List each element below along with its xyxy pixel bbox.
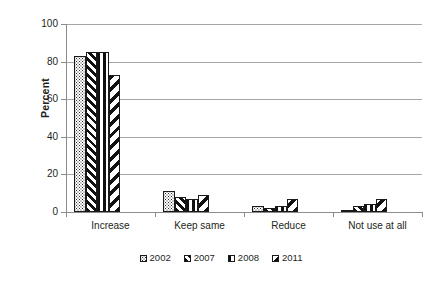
- x-axis-label-reduce: Reduce: [244, 219, 333, 235]
- bar-2007-increase: [86, 52, 98, 212]
- x-axis-label-keep-same: Keep same: [155, 219, 244, 235]
- y-tick-label-100: 100: [2, 19, 58, 29]
- y-axis-tick-labels: 020406080100: [0, 0, 58, 283]
- legend-label-2007: 2007: [194, 253, 215, 263]
- bar-2002-keep-same: [163, 191, 175, 212]
- x-axis-label-increase: Increase: [66, 219, 155, 235]
- legend-label-2002: 2002: [150, 253, 171, 263]
- legend-item-2008[interactable]: 2008: [228, 253, 259, 263]
- legend-swatch-2011-icon: [272, 255, 279, 262]
- legend-label-2008: 2008: [238, 253, 259, 263]
- legend-swatch-2002-icon: [140, 255, 147, 262]
- legend-item-2011[interactable]: 2011: [272, 253, 302, 263]
- y-tick-20: [61, 174, 66, 175]
- x-axis-separator: [333, 212, 334, 217]
- x-axis-labels: IncreaseKeep sameReduceNot use at all: [66, 219, 422, 235]
- x-axis-label-not-use-at-all: Not use at all: [333, 219, 422, 235]
- bar-2011-not-use-at-all: [376, 199, 388, 212]
- legend-swatch-2008-icon: [228, 255, 235, 262]
- y-tick-80: [61, 62, 66, 63]
- legend-label-2011: 2011: [282, 253, 302, 263]
- bar-2008-increase: [97, 52, 109, 212]
- bar-2011-keep-same: [198, 195, 210, 212]
- bar-group-not-use-at-all: [341, 24, 387, 212]
- y-tick-label-80: 80: [2, 57, 58, 67]
- bar-chart: Percent 020406080100 IncreaseKeep sameRe…: [0, 0, 442, 283]
- bar-group-keep-same: [163, 24, 209, 212]
- bar-2011-reduce: [287, 199, 299, 212]
- y-tick-label-20: 20: [2, 169, 58, 179]
- bar-2011-increase: [109, 75, 121, 212]
- x-axis-separator: [244, 212, 245, 217]
- bar-2008-not-use-at-all: [364, 204, 376, 212]
- chart-legend: 2002200720082011: [0, 253, 442, 263]
- bar-2008-keep-same: [186, 199, 198, 212]
- y-tick-label-60: 60: [2, 94, 58, 104]
- legend-swatch-2007-icon: [184, 255, 191, 262]
- y-tick-40: [61, 137, 66, 138]
- bar-2002-increase: [74, 56, 86, 212]
- y-tick-label-0: 0: [2, 207, 58, 217]
- legend-item-2007[interactable]: 2007: [184, 253, 215, 263]
- y-tick-60: [61, 99, 66, 100]
- y-axis-line: [66, 24, 67, 213]
- bar-2007-keep-same: [175, 197, 187, 212]
- y-tick-label-40: 40: [2, 132, 58, 142]
- x-axis-separator: [155, 212, 156, 217]
- bar-group-increase: [74, 24, 120, 212]
- x-axis-separator: [422, 212, 423, 217]
- legend-item-2002[interactable]: 2002: [140, 253, 171, 263]
- x-axis-separator: [66, 212, 67, 217]
- plot-area: [66, 24, 422, 212]
- y-tick-100: [61, 24, 66, 25]
- bar-group-reduce: [252, 24, 298, 212]
